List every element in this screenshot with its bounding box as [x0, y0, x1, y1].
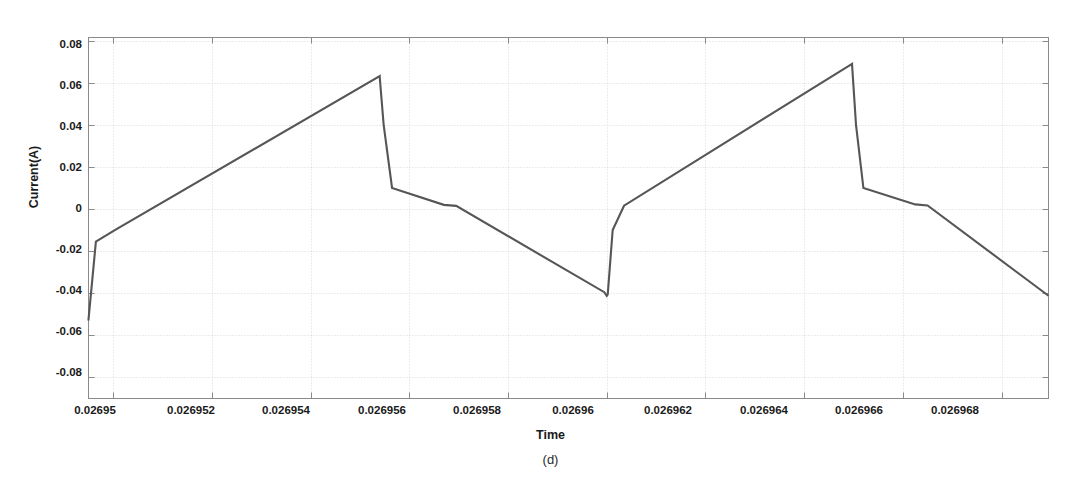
tick-marks-group: [89, 38, 1049, 399]
x-tick-label: 0.02695: [43, 404, 147, 416]
x-tick-label: 0.026954: [234, 404, 338, 416]
x-tick-label: 0.026962: [616, 404, 720, 416]
y-tick-label: 0.04: [24, 120, 82, 132]
gridlines-group: [89, 38, 1049, 399]
y-tick-label: -0.04: [24, 284, 82, 296]
x-axis-title: Time: [0, 428, 1085, 442]
figure-container: Current(A) 0.08 0.06 0.04 0.02 0 -0.02 -…: [0, 0, 1085, 489]
data-series-line: [89, 64, 1049, 321]
y-tick-label: -0.06: [24, 325, 82, 337]
y-tick-label: 0: [24, 202, 82, 214]
plot-frame: [89, 38, 1049, 399]
x-tick-label: 0.026956: [330, 404, 434, 416]
y-tick-label: 0.02: [24, 161, 82, 173]
x-tick-label: 0.026964: [712, 404, 816, 416]
figure-caption: (d): [0, 452, 1085, 467]
y-tick-label: 0.06: [24, 79, 82, 91]
x-tick-label: 0.026952: [139, 404, 243, 416]
x-tick-label: 0.02696: [521, 404, 625, 416]
x-tick-label: 0.026958: [425, 404, 529, 416]
x-tick-label: 0.026968: [903, 404, 1007, 416]
y-tick-label: 0.08: [24, 38, 82, 50]
y-axis-title: Current(A): [27, 117, 41, 237]
y-tick-label: -0.08: [24, 366, 82, 378]
y-tick-label: -0.02: [24, 243, 82, 255]
x-tick-label: 0.026966: [807, 404, 911, 416]
